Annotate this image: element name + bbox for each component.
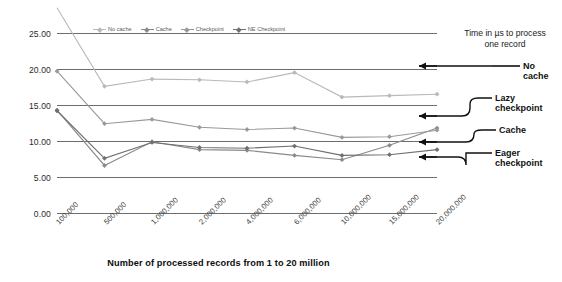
callout-no-cache: No cache — [523, 61, 562, 82]
y-axis-title-line2: one record — [452, 39, 558, 50]
callout-lazy-checkpoint-line2: checkpoint — [495, 103, 543, 113]
callout-lazy-checkpoint-line1: Lazy — [495, 93, 515, 103]
callout-cache: Cache — [499, 125, 526, 135]
callout-eager-checkpoint-line1: Eager — [495, 148, 520, 158]
chart-figure: 25.00 20.00 15.00 10.00 5.00 0.00 No cac… — [0, 0, 562, 282]
y-axis-title-line1: Time in µs to process — [452, 28, 558, 39]
callout-eager-checkpoint-line2: checkpoint — [495, 158, 543, 168]
